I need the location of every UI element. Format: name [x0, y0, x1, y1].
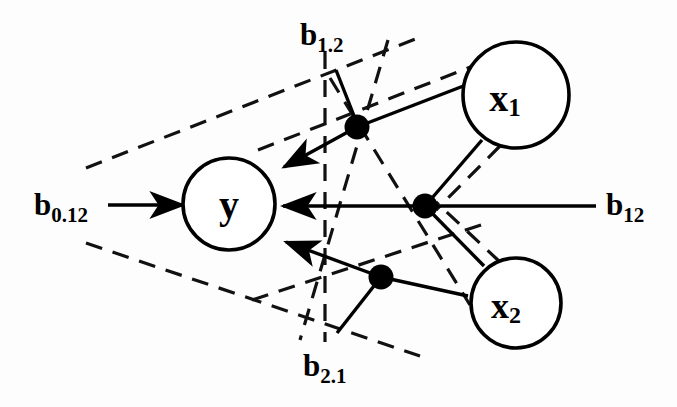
coef-label-b1-2: b1.2	[300, 17, 344, 57]
path-diagram-svg: y x1 x2 b1.2 b0.12	[0, 0, 677, 407]
coef-b12-base: b	[606, 187, 623, 222]
coef-b2-1-base: b	[303, 348, 320, 383]
coef-b1-2-base: b	[300, 17, 317, 52]
node-y[interactable]: y	[183, 158, 275, 250]
node-x1-subscript: 1	[508, 94, 521, 121]
junction-dot-group	[345, 115, 438, 290]
diagram-canvas: y x1 x2 b1.2 b0.12	[0, 0, 677, 407]
dot-lower-junction	[369, 265, 394, 290]
dashed-x2-up-to-center	[436, 202, 500, 262]
coef-b2-1-subscript: 2.1	[320, 364, 346, 388]
coef-label-b0-12: b0.12	[34, 187, 88, 227]
coef-b1-2-subscript: 1.2	[317, 33, 343, 57]
node-x2-subscript: 2	[509, 302, 521, 328]
dashed-path-group	[86, 38, 500, 356]
coef-b12-subscript: 12	[623, 203, 644, 227]
coef-b0-12-subscript: 0.12	[51, 203, 88, 227]
path-x2-to-center-dot	[426, 207, 484, 266]
node-x2[interactable]: x2	[471, 258, 561, 348]
coef-b0-12-base: b	[34, 187, 51, 222]
dot-middle-junction	[413, 194, 438, 219]
node-y-label: y	[219, 182, 239, 227]
coef-label-b12: b12	[606, 187, 644, 227]
node-x1[interactable]: x1	[463, 42, 569, 148]
dashed-lower-envelope-right	[300, 40, 388, 340]
dot-upper-junction	[345, 115, 370, 140]
node-group: y x1 x2	[183, 42, 569, 348]
node-x2-base: x	[491, 286, 509, 326]
coef-label-b2-1: b2.1	[303, 348, 347, 388]
node-x1-base: x	[489, 77, 508, 119]
